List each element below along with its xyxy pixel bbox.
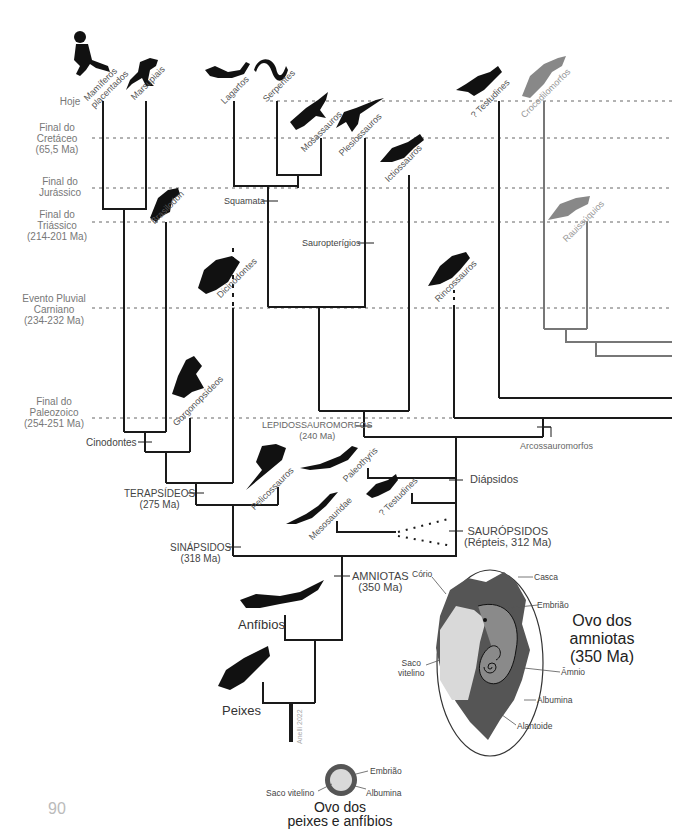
fish-egg-label-saco-vitelino: Saco vitelino xyxy=(266,788,314,798)
terapsideos-age: (275 Ma) xyxy=(124,499,195,510)
lepidossauromorfos-age: (240 Ma) xyxy=(262,431,373,442)
egg-label-corio: Cório xyxy=(412,569,432,579)
egg-label-casca: Casca xyxy=(534,572,558,582)
node-label-arcossauromorfos: Arcossauromorfos xyxy=(520,441,593,452)
fish-egg-label-embriao: Embrião xyxy=(370,766,402,776)
fish-egg-title: Ovo dos peixes e anfíbios xyxy=(265,800,415,828)
node-label-terapsideos: TERAPSÍDEOS (275 Ma) xyxy=(124,488,195,510)
timeline-label-carniano: Evento Pluvial Carniano (234-232 Ma) xyxy=(16,293,92,326)
fish-egg-label-albumina: Albumina xyxy=(366,788,401,798)
human-silhouette-icon xyxy=(74,31,110,76)
egg-label-embriao: Embrião xyxy=(537,600,569,610)
page-number: 90 xyxy=(48,800,66,818)
egg-label-amnio: Âmnio xyxy=(561,667,585,677)
sauropsidos-age: (Répteis, 312 Ma) xyxy=(464,537,551,548)
sinapsidos-name: SINÁPSIDOS xyxy=(170,542,231,553)
amniotas-age: (350 Ma) xyxy=(352,582,409,593)
uncertain-branches xyxy=(398,518,452,546)
timeline-label-cretaceo: Final do Cretáceo (65,5 Ma) xyxy=(22,122,92,155)
node-label-lepidossauromorfos: LEPIDOSSAUROMORFOS (240 Ma) xyxy=(262,420,373,442)
timeline-label-jurassico: Final do Jurássico xyxy=(28,176,92,198)
node-label-sinapsidos: SINÁPSIDOS (318 Ma) xyxy=(170,542,231,564)
node-label-diapsidos: Diápsidos xyxy=(470,474,518,485)
label-anfibios: Anfíbios xyxy=(238,617,285,632)
timeline-rules xyxy=(92,101,672,418)
amphibian-silhouette-icon xyxy=(240,580,324,608)
credit-text: Anelli 2022 xyxy=(296,709,303,744)
silhouettes xyxy=(74,31,502,690)
amniote-egg-title: Ovo dos amniotas (350 Ma) xyxy=(562,612,642,666)
timeline-label-hoje: Hoje xyxy=(52,96,88,107)
paleothyris-silhouette-icon xyxy=(300,446,358,470)
node-label-sauropsidos: SAURÓPSIDOS (Répteis, 312 Ma) xyxy=(464,526,551,548)
terapsideos-name: TERAPSÍDEOS xyxy=(124,488,195,499)
timeline-label-paleozoico: Final do Paleozoico (254-251 Ma) xyxy=(16,396,92,429)
egg-label-albumina: Albumina xyxy=(537,695,572,705)
archosaur-branches xyxy=(544,101,672,356)
egg-label-saco-vitelino: Saco vitelino xyxy=(398,658,424,678)
label-peixes: Peixes xyxy=(222,703,261,718)
node-label-sauropterigios: Sauropterígios xyxy=(302,238,361,249)
node-label-squamata: Squamata xyxy=(224,196,265,207)
fish-egg-diagram xyxy=(318,764,368,796)
node-label-cinodontes: Cinodontes xyxy=(86,437,137,448)
lepidossauromorfos-name: LEPIDOSSAUROMORFOS xyxy=(262,420,373,431)
node-label-amniotas: AMNIOTAS (350 Ma) xyxy=(352,571,409,593)
egg-label-alantoide: Alantoide xyxy=(517,721,552,731)
sinapsidos-age: (318 Ma) xyxy=(170,553,231,564)
timeline-label-triassico: Final do Triássico (214-201 Ma) xyxy=(22,209,92,242)
